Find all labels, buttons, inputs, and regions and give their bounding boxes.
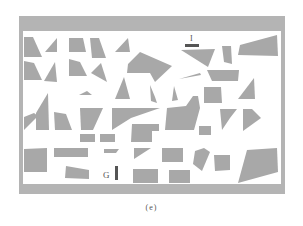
obstacle-polygon: [214, 155, 230, 171]
start-label: I: [190, 34, 193, 43]
obstacle-polygon: [199, 126, 211, 135]
obstacle-polygon: [69, 38, 86, 52]
obstacle-polygon: [133, 169, 158, 183]
obstacle-polygon: [100, 134, 115, 142]
goal-label: G: [103, 170, 110, 180]
figure-caption: (e): [0, 203, 303, 212]
obstacle-polygon: [162, 148, 183, 162]
obstacle-polygon: [169, 170, 190, 183]
obstacle-polygon: [204, 87, 222, 103]
obstacle-polygon: [80, 134, 95, 142]
obstacle-polygon: [54, 148, 88, 157]
obstacle-polygon: [207, 70, 239, 81]
goal-marker-bar: [115, 166, 118, 180]
start-marker-bar: [185, 44, 199, 47]
obstacle-map: I G: [0, 0, 303, 226]
obstacle-polygon: [24, 148, 47, 172]
